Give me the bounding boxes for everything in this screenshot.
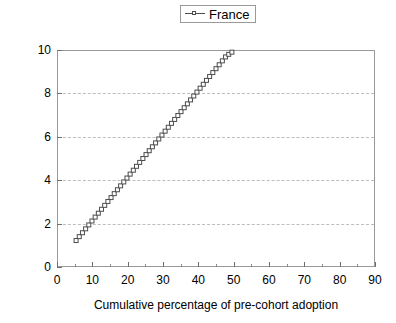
chart-figure: France Predicted effect 0246810010203040… (0, 0, 396, 323)
x-tick-label: 50 (214, 274, 254, 286)
y-tick-label: 6 (21, 131, 51, 143)
x-tick-mark (234, 262, 235, 267)
x-axis-title: Cumulative percentage of pre-cohort adop… (57, 298, 375, 312)
legend-label-france: France (209, 8, 249, 21)
x-tick-label: 10 (72, 274, 112, 286)
x-tick-label: 70 (284, 274, 324, 286)
x-tick-mark (340, 262, 341, 267)
y-tick-mark (57, 50, 62, 51)
y-tick-label: 8 (21, 87, 51, 99)
x-tick-mark-minor (322, 264, 323, 267)
x-tick-mark-minor (251, 264, 252, 267)
x-tick-mark (269, 262, 270, 267)
y-tick-mark (57, 224, 62, 225)
y-tick-label: 0 (21, 261, 51, 273)
x-tick-mark (304, 262, 305, 267)
x-tick-mark (163, 262, 164, 267)
x-tick-label: 40 (178, 274, 218, 286)
y-tick-mark (57, 137, 62, 138)
x-tick-mark (57, 262, 58, 267)
y-tick-mark (57, 180, 62, 181)
series-france (57, 50, 375, 267)
y-tick-label: 10 (21, 44, 51, 56)
x-tick-mark-minor (216, 264, 217, 267)
x-tick-mark (128, 262, 129, 267)
x-tick-label: 20 (108, 274, 148, 286)
y-tick-label: 2 (21, 218, 51, 230)
x-tick-mark-minor (181, 264, 182, 267)
x-tick-mark-minor (357, 264, 358, 267)
x-tick-mark (198, 262, 199, 267)
x-tick-mark-minor (287, 264, 288, 267)
x-tick-label: 0 (37, 274, 77, 286)
y-tick-mark (57, 267, 62, 268)
x-tick-mark-minor (110, 264, 111, 267)
x-tick-mark (92, 262, 93, 267)
x-tick-label: 60 (249, 274, 289, 286)
chart-legend: France (180, 5, 256, 23)
x-tick-mark-minor (145, 264, 146, 267)
x-tick-label: 80 (320, 274, 360, 286)
y-tick-label: 4 (21, 174, 51, 186)
x-tick-mark-minor (75, 264, 76, 267)
x-tick-label: 30 (143, 274, 183, 286)
x-tick-mark (375, 262, 376, 267)
y-tick-mark (57, 93, 62, 94)
x-tick-label: 90 (355, 274, 395, 286)
legend-marker-icon (185, 9, 205, 19)
